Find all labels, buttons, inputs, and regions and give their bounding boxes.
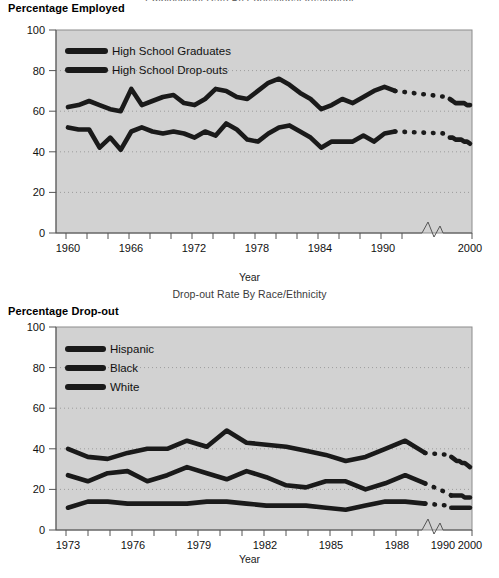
figure1-y-axis [49, 30, 56, 233]
figure1-xtick-1972: 1972 [182, 242, 206, 254]
figure1-xtick-1966: 1966 [119, 242, 143, 254]
figure2-xtick-1990: 1990 [431, 539, 455, 551]
figure2-x-tick-labels: 1973 1976 1979 1982 1985 1988 1990 2000 [56, 539, 482, 551]
figure1-svg: 100 80 60 40 20 0 [0, 18, 499, 280]
figure2-xtick-1979: 1979 [187, 539, 211, 551]
figure2-ytick-100: 100 [27, 321, 45, 333]
figure1-axis-title: Percentage Employed [8, 2, 125, 14]
figure2-plot: 100 80 60 40 20 0 [0, 321, 499, 578]
figure2-xtick-1976: 1976 [121, 539, 145, 551]
series-line-black [451, 496, 470, 498]
figure2-axis-title: Percentage Drop-out [8, 305, 119, 317]
figure1-xtick-1984: 1984 [308, 242, 332, 254]
figure2-ytick-0: 0 [39, 524, 45, 536]
figure1-x-tick-labels: 1960 1966 1972 1978 1984 1990 2000 [56, 242, 482, 254]
figure2-ytick-80: 80 [33, 362, 45, 374]
figure1-clipped-title: Employment Rate By Educational Attainmen… [0, 0, 499, 1]
figure1-xtick-1978: 1978 [245, 242, 269, 254]
figure1-ytick-80: 80 [33, 65, 45, 77]
figure2-legend-label-white: White [110, 381, 139, 393]
figure1-xtick-1960: 1960 [56, 242, 80, 254]
figure2-xtick-1985: 1985 [319, 539, 343, 551]
figure2-y-axis [49, 327, 56, 530]
figure2-ytick-40: 40 [33, 443, 45, 455]
figure1-xaxis-label: Year [0, 271, 499, 283]
figure1-xtick-2000: 2000 [458, 242, 482, 254]
figure1-ytick-100: 100 [27, 24, 45, 36]
figure2-x-minor-ticks [66, 530, 472, 536]
figure1-legend-label-graduates: High School Graduates [112, 45, 231, 57]
figure1-plot: 100 80 60 40 20 0 [0, 18, 499, 280]
figure2-xaxis-label: Year [0, 553, 499, 565]
figure2-title: Drop-out Rate By Race/Ethnicity [0, 288, 499, 300]
figure2-legend-label-hispanic: Hispanic [110, 343, 154, 355]
figure2-legend-label-black: Black [110, 362, 138, 374]
figure1-x-minor-ticks [66, 233, 472, 239]
figure1-ytick-0: 0 [39, 227, 45, 239]
figure1-ytick-20: 20 [33, 186, 45, 198]
figure-dropout-rate: Drop-out Rate By Race/Ethnicity Percenta… [0, 288, 499, 578]
figure1-ytick-60: 60 [33, 105, 45, 117]
figure1-plot-background [56, 30, 472, 233]
figure2-xtick-2000: 2000 [458, 539, 482, 551]
figure2-y-tick-labels: 100 80 60 40 20 0 [27, 321, 45, 536]
figure2-xtick-1982: 1982 [253, 539, 277, 551]
figure2-ytick-60: 60 [33, 402, 45, 414]
figure1-xtick-1990: 1990 [371, 242, 395, 254]
figure1-ytick-40: 40 [33, 146, 45, 158]
figure1-legend-label-dropouts: High School Drop-outs [112, 64, 228, 76]
figure1-y-tick-labels: 100 80 60 40 20 0 [27, 24, 45, 239]
figure2-plot-background [56, 327, 472, 530]
figure2-xtick-1988: 1988 [385, 539, 409, 551]
figure-employment-rate: Employment Rate By Educational Attainmen… [0, 0, 499, 290]
figure2-ytick-20: 20 [33, 483, 45, 495]
figure2-xtick-1973: 1973 [56, 539, 80, 551]
figure2-svg: 100 80 60 40 20 0 [0, 321, 499, 578]
